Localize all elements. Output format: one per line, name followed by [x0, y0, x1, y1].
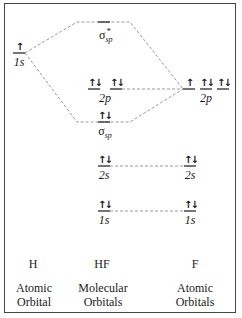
hf-caption: Molecular Orbitals — [76, 281, 130, 309]
f-2p-b-electrons: ↑↓ — [200, 78, 212, 88]
f-atom-label: F — [180, 257, 210, 271]
hf-2p-b-electrons: ↑↓ — [110, 78, 122, 88]
f-2p-a-electrons: ↑ — [183, 78, 195, 88]
hf-2p-label: 2p — [97, 92, 113, 104]
hf-1s-label: 1s — [96, 214, 112, 226]
sigma-electrons: ↑↓ — [98, 111, 110, 121]
h-caption-line1: Atomic — [10, 281, 58, 295]
sigma-star-sub: sp — [105, 35, 112, 44]
hf-2p-a-electrons: ↑↓ — [88, 78, 100, 88]
h-1s-label: 1s — [11, 56, 27, 68]
hf-molecule-label: HF — [87, 257, 117, 271]
f-caption: Atomic Orbitals — [170, 281, 220, 309]
hf-2s-electrons: ↑↓ — [98, 155, 110, 165]
f-caption-line2: Orbitals — [170, 295, 220, 309]
h-atom-label: H — [18, 257, 48, 271]
f-2s-electrons: ↑↓ — [184, 155, 196, 165]
sigma-sub: sp — [105, 131, 112, 140]
h-1s-electrons: ↑ — [13, 42, 25, 52]
sigma-star-label: σsp* — [94, 25, 116, 46]
h-caption-line2: Orbital — [10, 295, 58, 309]
f-2p-c-electrons: ↑↓ — [217, 78, 229, 88]
hf-2s-label: 2s — [96, 169, 112, 181]
hf-1s-electrons: ↑↓ — [98, 200, 110, 210]
f-2p-label: 2p — [198, 92, 214, 104]
f-1s-electrons: ↑↓ — [184, 200, 196, 210]
sigma-label: σsp — [94, 125, 116, 142]
sigma-star-sup: * — [107, 26, 112, 36]
h-caption: Atomic Orbital — [10, 281, 58, 309]
f-caption-line1: Atomic — [170, 281, 220, 295]
hf-caption-line2: Orbitals — [76, 295, 130, 309]
hf-caption-line1: Molecular — [76, 281, 130, 295]
f-2s-label: 2s — [182, 169, 198, 181]
f-1s-label: 1s — [182, 214, 198, 226]
